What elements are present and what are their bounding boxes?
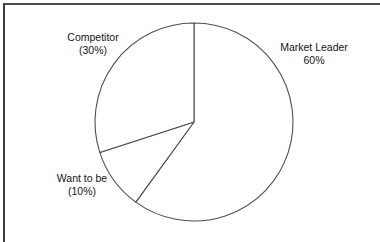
pie-label-market-leader-name: Market Leader	[280, 41, 348, 53]
pie-label-market-leader: Market Leader 60%	[266, 41, 362, 67]
pie-chart-figure: Competitor (30%) Market Leader 60% Want …	[0, 0, 380, 242]
pie-label-want-to-be: Want to be (10%)	[34, 172, 130, 198]
pie-label-competitor-value: (30%)	[47, 44, 139, 57]
pie-label-competitor-name: Competitor	[67, 31, 118, 43]
pie-label-want-to-be-name: Want to be	[57, 172, 107, 184]
pie-label-competitor: Competitor (30%)	[47, 31, 139, 57]
pie-label-want-to-be-value: (10%)	[34, 185, 130, 198]
pie-label-market-leader-value: 60%	[266, 54, 362, 67]
